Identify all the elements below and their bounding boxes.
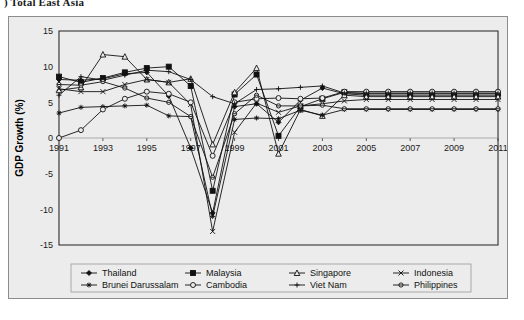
- legend-label: Viet Nam: [310, 280, 347, 290]
- data-point: [189, 115, 193, 119]
- data-point: [386, 107, 390, 111]
- data-point: [100, 107, 105, 112]
- data-point: [254, 93, 258, 97]
- data-point: [408, 107, 412, 111]
- data-point: [210, 188, 215, 193]
- data-point: [320, 96, 325, 101]
- x-tick-label: 2005: [356, 143, 376, 153]
- data-point: [144, 89, 149, 94]
- x-tick-label: 2003: [312, 143, 332, 153]
- y-tick-label: 10: [43, 62, 53, 72]
- data-point: [188, 100, 193, 105]
- data-point: [57, 82, 61, 86]
- data-point: [342, 107, 346, 111]
- legend-marker: [87, 283, 92, 288]
- data-point: [122, 96, 127, 101]
- data-point: [167, 100, 171, 104]
- x-tick-label: 2007: [400, 143, 420, 153]
- legend-label: Malaysia: [206, 268, 242, 278]
- legend-label: Singapore: [310, 268, 351, 278]
- x-tick-label: 1993: [93, 143, 113, 153]
- x-tick-label: 2011: [488, 143, 507, 153]
- data-point: [298, 104, 302, 108]
- data-point: [78, 128, 83, 133]
- legend-marker: [399, 283, 403, 287]
- data-point: [79, 83, 83, 87]
- legend-label: Cambodia: [206, 280, 247, 290]
- data-point: [320, 113, 325, 118]
- gdp-growth-line-chart: 151050-5-10-15 1991199319951997199920012…: [9, 17, 507, 298]
- x-tick-label: 1991: [49, 143, 69, 153]
- data-point: [123, 86, 127, 90]
- data-point: [298, 96, 303, 101]
- figure-root: ) Total East Asia 151050-5-10-15 1991199…: [0, 0, 524, 320]
- data-point: [254, 116, 259, 121]
- data-point: [101, 80, 105, 84]
- data-point: [57, 136, 62, 141]
- legend-label: Thailand: [102, 268, 137, 278]
- data-point: [57, 74, 62, 79]
- data-point: [166, 91, 171, 96]
- figure-caption: ) Total East Asia: [4, 0, 84, 8]
- legend-marker: [191, 283, 196, 288]
- data-point: [210, 153, 215, 158]
- data-point: [320, 103, 324, 107]
- legend-label: Indonesia: [414, 268, 453, 278]
- data-point: [276, 133, 281, 138]
- data-point: [122, 103, 127, 108]
- data-point: [364, 107, 368, 111]
- y-tick-label: -15: [40, 240, 53, 250]
- y-tick-label: -10: [40, 205, 53, 215]
- x-tick-label: 2009: [444, 143, 464, 153]
- legend-label: Brunei Darussalam: [102, 280, 179, 290]
- data-point: [211, 175, 215, 179]
- data-point: [233, 112, 237, 116]
- data-point: [144, 103, 149, 108]
- y-tick-label: 0: [48, 133, 53, 143]
- figure-frame: 151050-5-10-15 1991199319951997199920012…: [8, 16, 508, 299]
- data-point: [430, 107, 434, 111]
- y-tick-label: 15: [43, 26, 53, 36]
- y-axis-tick-labels: 151050-5-10-15: [40, 26, 53, 250]
- data-point: [276, 96, 281, 101]
- data-point: [78, 105, 83, 110]
- data-point: [496, 107, 500, 111]
- chart-legend: ThailandMalaysiaSingaporeIndonesiaBrunei…: [71, 264, 471, 292]
- data-point: [166, 64, 171, 69]
- data-point: [276, 116, 281, 121]
- data-point: [474, 107, 478, 111]
- data-point: [210, 214, 215, 219]
- x-tick-label: 1995: [137, 143, 157, 153]
- data-point: [57, 111, 62, 116]
- y-tick-label: 5: [48, 98, 53, 108]
- y-tick-label: -5: [45, 169, 53, 179]
- data-point: [145, 96, 149, 100]
- data-point: [276, 104, 280, 108]
- y-axis-title: GDP Growth (%): [14, 99, 25, 177]
- legend-label: Philippines: [414, 280, 458, 290]
- data-point: [452, 107, 456, 111]
- legend-marker: [191, 271, 196, 276]
- data-point: [166, 113, 171, 118]
